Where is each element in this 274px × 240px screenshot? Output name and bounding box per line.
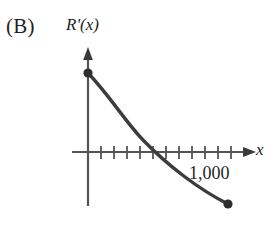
plot-area [0,0,274,240]
x-axis-arrowhead [243,147,256,157]
curve-r-prime [88,73,228,204]
y-axis-arrowhead [83,47,93,60]
curve-end-point [223,199,232,208]
figure-panel-b: (B) R'(x) x 1,000 [0,0,274,240]
curve-start-point [83,68,92,77]
